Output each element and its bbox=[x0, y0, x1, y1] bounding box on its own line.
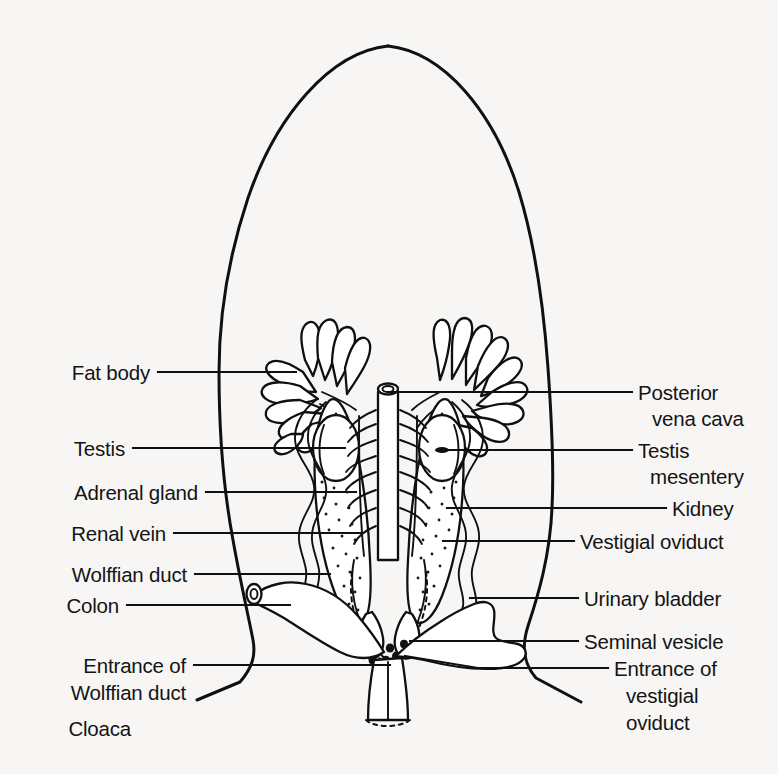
label-adrenal-gland: Adrenal gland bbox=[74, 481, 198, 504]
labels-left-group: Fat body Testis Adrenal gland Renal vein… bbox=[66, 361, 198, 617]
label-vestigial-oviduct: Vestigial oviduct bbox=[580, 530, 724, 553]
diagram-canvas: Fat body Testis Adrenal gland Renal vein… bbox=[0, 0, 778, 774]
label-posterior-vena-cava-line2: vena cava bbox=[652, 407, 744, 430]
label-wolffian-duct: Wolffian duct bbox=[72, 563, 188, 586]
label-renal-vein: Renal vein bbox=[71, 522, 166, 545]
label-entrance-of-wolffian-duct-line2: Wolffian duct bbox=[71, 681, 187, 704]
anatomical-figure: Fat body Testis Adrenal gland Renal vein… bbox=[0, 0, 778, 774]
labels-right-group: Posterior vena cava Testis mesentery Kid… bbox=[580, 381, 745, 734]
label-cloaca: Cloaca bbox=[68, 717, 131, 740]
label-seminal-vesicle: Seminal vesicle bbox=[584, 630, 723, 653]
cloaca bbox=[366, 658, 410, 726]
label-fat-body: Fat body bbox=[72, 361, 151, 384]
posterior-vena-cava bbox=[378, 384, 398, 561]
label-kidney: Kidney bbox=[672, 497, 734, 520]
label-entrance-of-vestigial-oviduct-line2: vestigial bbox=[626, 684, 698, 707]
label-entrance-of-wolffian-duct-line1: Entrance of bbox=[83, 654, 186, 677]
label-posterior-vena-cava-line1: Posterior bbox=[638, 381, 719, 404]
label-testis-mesentery-line1: Testis bbox=[638, 439, 689, 462]
label-testis-mesentery-line2: mesentery bbox=[650, 465, 745, 488]
label-entrance-of-vestigial-oviduct-line3: oviduct bbox=[626, 711, 690, 734]
label-entrance-of-vestigial-oviduct-line1: Entrance of bbox=[614, 657, 717, 680]
label-colon: Colon bbox=[66, 594, 119, 617]
label-urinary-bladder: Urinary bladder bbox=[584, 587, 722, 610]
label-testis: Testis bbox=[74, 437, 125, 460]
labels-left-multiline-group: Entrance of Wolffian duct Cloaca bbox=[68, 654, 186, 740]
